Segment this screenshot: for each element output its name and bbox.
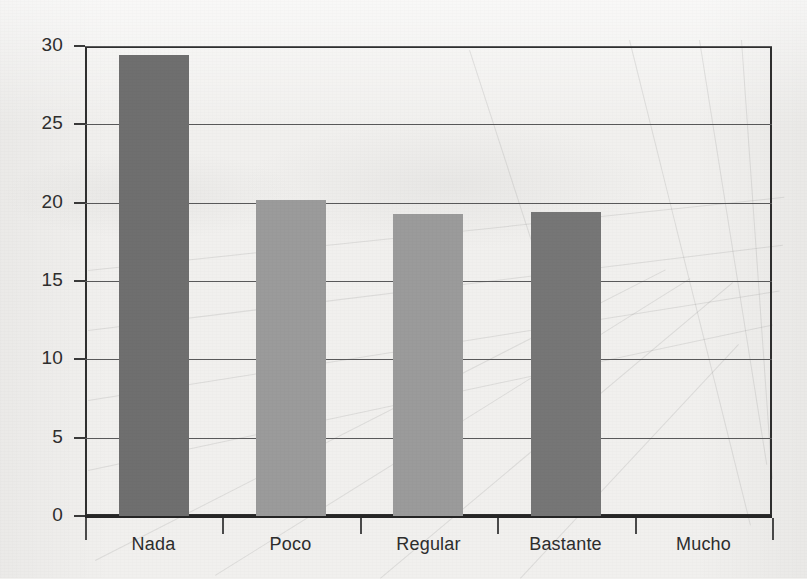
y-tick-label: 5 (5, 426, 63, 448)
x-tick-label-nada: Nada (85, 534, 222, 555)
x-tick-mark (497, 518, 499, 534)
bar-poco (256, 200, 326, 516)
x-tick-mark (635, 518, 637, 534)
y-tick-mark (74, 515, 85, 517)
x-tick-mark (360, 518, 362, 534)
x-axis-end-tick (772, 518, 774, 540)
y-tick-label: 30 (5, 34, 63, 56)
x-tick-label-poco: Poco (222, 534, 359, 555)
x-tick-label-mucho: Mucho (635, 534, 772, 555)
x-tick-label-bastante: Bastante (497, 534, 634, 555)
y-gridline (85, 46, 772, 47)
bar-nada (119, 55, 189, 516)
y-tick-label: 20 (5, 191, 63, 213)
y-tick-mark (74, 437, 85, 439)
y-tick-mark (74, 123, 85, 125)
y-tick-mark (74, 202, 85, 204)
x-tick-label-regular: Regular (360, 534, 497, 555)
bar-bastante (531, 212, 601, 516)
y-tick-mark (74, 280, 85, 282)
x-tick-mark (222, 518, 224, 534)
y-tick-label: 15 (5, 269, 63, 291)
bar-regular (393, 214, 463, 516)
y-tick-label: 10 (5, 347, 63, 369)
y-tick-mark (74, 358, 85, 360)
x-axis-end-tick (85, 518, 87, 540)
y-tick-mark (74, 45, 85, 47)
y-tick-label: 25 (5, 112, 63, 134)
y-tick-label: 0 (5, 504, 63, 526)
